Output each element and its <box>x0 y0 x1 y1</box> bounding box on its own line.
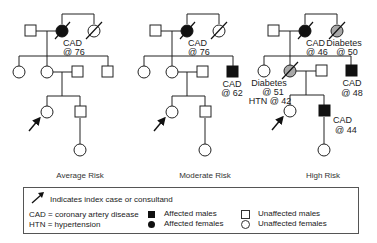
aunt-unaffected-female <box>138 66 150 78</box>
uncle-label-age: @ 62 <box>221 88 243 98</box>
pedigree-high: CAD @ 46 Diabetes @ 50 CAD @ 48 Diabetes… <box>249 14 363 180</box>
legend-unaffected-females: Unaffected females <box>258 219 327 229</box>
mother-unaffected-female <box>41 66 53 78</box>
uncle-label-age: @ 48 <box>341 88 363 98</box>
legend-htn: HTN = hypertension <box>29 220 100 230</box>
brother-unaffected-male <box>75 106 86 117</box>
brother-label-age: @ 44 <box>335 125 357 135</box>
grandfather-unaffected-male <box>268 25 279 36</box>
father-unaffected-male <box>197 66 208 77</box>
pedigree-figure: CAD @ 76 Average Risk CAD @ 76 <box>0 0 377 243</box>
legend-affected-males: Affected males <box>164 209 217 219</box>
affected-female-icon <box>148 221 155 228</box>
affected-male-icon <box>148 211 155 218</box>
uncle-affected-male <box>346 65 357 76</box>
pedigree-average: CAD @ 76 Average Risk <box>13 14 113 180</box>
niece-unaffected-female <box>74 144 86 156</box>
aunt-unaffected-female <box>258 65 270 77</box>
niece-unaffected-female <box>318 144 330 156</box>
caption-average-risk: Average Risk <box>56 171 104 180</box>
index-case-arrow-icon <box>30 191 46 205</box>
mother-label-htn: HTN @ 42 <box>249 96 292 106</box>
brother-unaffected-male <box>200 106 211 117</box>
uncle-affected-male <box>227 66 238 77</box>
legend: Indicates index case or consultand CAD =… <box>23 187 359 234</box>
legend-affected-females: Affected females <box>164 219 223 229</box>
unaffected-male-icon <box>241 210 250 219</box>
legend-index-case: Indicates index case or consultand <box>50 195 173 205</box>
uncle-label-condition: CAD <box>342 78 362 88</box>
mother-unaffected-female <box>166 66 178 78</box>
father-unaffected-male <box>316 65 327 76</box>
proband-female <box>284 105 296 117</box>
unaffected-female-icon <box>241 220 250 229</box>
index-case-arrow-icon <box>272 118 282 130</box>
caption-moderate-risk: Moderate Risk <box>179 171 232 180</box>
grandmother-label-age: @ 46 <box>306 47 328 57</box>
caption-high-risk: High Risk <box>306 171 341 180</box>
proband-female <box>166 106 178 118</box>
index-case-arrow-icon <box>154 119 164 131</box>
legend-cad: CAD = coronary artery disease <box>29 210 139 220</box>
grandmother-label-age: @ 76 <box>63 47 85 57</box>
index-case-arrow-icon <box>29 119 39 131</box>
proband-female <box>41 106 53 118</box>
brother-affected-male <box>319 105 330 116</box>
great-aunt-label-age: @ 50 <box>336 47 358 57</box>
brother-label-condition: CAD <box>333 115 353 125</box>
aunt-unaffected-female <box>13 66 25 78</box>
pedigree-moderate: CAD @ 76 CAD @ 62 Moderate Risk <box>138 14 243 180</box>
grandfather-unaffected-male <box>150 25 161 36</box>
grandmother-label-age: @ 76 <box>188 47 210 57</box>
niece-unaffected-female <box>199 144 211 156</box>
grandfather-unaffected-male <box>25 25 36 36</box>
legend-unaffected-males: Unaffected males <box>258 209 320 219</box>
uncle-unaffected-male <box>102 66 113 77</box>
father-unaffected-male <box>72 66 83 77</box>
